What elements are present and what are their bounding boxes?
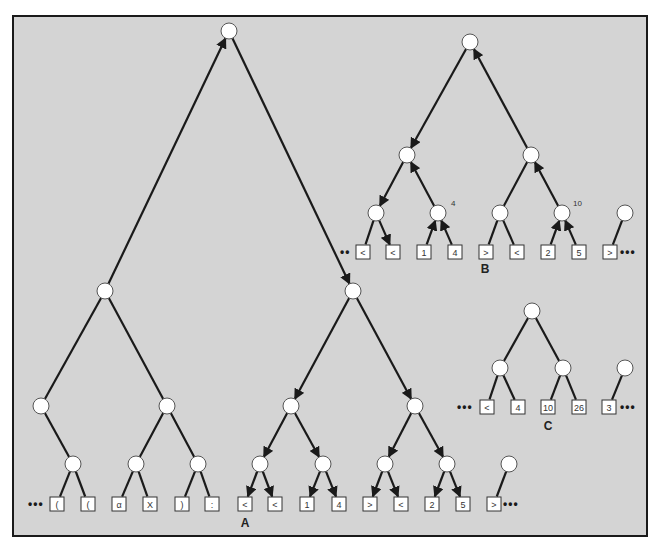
tree-node xyxy=(190,456,206,472)
directed-edge xyxy=(535,162,558,206)
tree-edge xyxy=(497,471,506,496)
token-leaf-label: ( xyxy=(56,500,59,510)
tree-edge xyxy=(613,220,622,244)
directed-edge xyxy=(263,471,272,496)
tree-edge xyxy=(185,471,195,496)
leading-ellipsis: ••• xyxy=(457,400,473,414)
tree-node xyxy=(315,456,331,472)
tree-edge xyxy=(489,221,498,245)
token-leaf-label: 2 xyxy=(429,500,434,510)
token-leaf-label: 1 xyxy=(421,248,426,258)
token-leaf-label: α xyxy=(116,500,121,510)
directed-edge xyxy=(295,413,319,457)
tree-edge xyxy=(490,376,498,400)
tree-edge xyxy=(109,298,163,399)
directed-edge xyxy=(427,221,436,245)
tree-node xyxy=(555,360,571,376)
directed-edge xyxy=(388,471,398,496)
directed-edge xyxy=(474,49,527,148)
directed-edge xyxy=(108,38,225,284)
tree-node xyxy=(439,456,455,472)
token-leaf-label: : xyxy=(211,500,214,510)
tree-edge xyxy=(503,375,514,399)
trailing-ellipsis: ••• xyxy=(620,245,636,259)
token-leaf-label: 1 xyxy=(304,500,309,510)
tree-edge xyxy=(140,413,163,457)
token-leaf-label: 4 xyxy=(515,403,520,413)
tree-node xyxy=(492,360,508,376)
tree-edge xyxy=(536,318,559,361)
tree-node xyxy=(159,398,175,414)
token-leaf-label: 5 xyxy=(460,500,465,510)
tree-node xyxy=(283,398,299,414)
tree-edge xyxy=(122,471,133,496)
tree-edge xyxy=(201,472,210,497)
tree-node xyxy=(252,456,268,472)
tree-edge xyxy=(45,413,69,457)
tree-edge xyxy=(612,375,622,399)
tree-edge xyxy=(76,471,85,496)
tree-edge xyxy=(45,298,101,399)
tree-edge xyxy=(566,375,576,399)
directed-edge xyxy=(326,471,336,496)
token-leaf-label: < xyxy=(242,500,247,510)
tree-node xyxy=(524,303,540,319)
trailing-ellipsis: ••• xyxy=(620,400,636,414)
tree-node xyxy=(430,205,446,221)
token-leaf-label: 3 xyxy=(606,403,611,413)
directed-edge xyxy=(419,413,443,457)
token-leaf-label: < xyxy=(484,403,489,413)
tree-edge xyxy=(139,472,148,497)
directed-edge xyxy=(380,162,403,206)
directed-edge xyxy=(565,220,576,244)
tree-node xyxy=(399,147,415,163)
directed-edge xyxy=(357,298,411,399)
tree-node xyxy=(617,205,633,221)
directed-edge xyxy=(389,413,412,457)
directed-edge xyxy=(411,162,434,206)
tree-node xyxy=(407,398,423,414)
node-annotation-10: 10 xyxy=(573,199,582,208)
panel-label-b: B xyxy=(481,262,490,276)
token-leaf-label: ) xyxy=(181,500,184,510)
token-leaf-label: < xyxy=(398,500,403,510)
token-leaf-label: > xyxy=(483,248,488,258)
tree-node xyxy=(554,205,570,221)
tree-edge xyxy=(551,375,560,399)
tree-node xyxy=(33,398,49,414)
tree-diagram-canvas: ((αX):<<14><25>••••••A<<14><25>•••••410B… xyxy=(0,0,661,549)
tree-edge xyxy=(504,162,527,206)
tree-node xyxy=(97,283,113,299)
directed-edge xyxy=(379,220,390,244)
tree-edge xyxy=(366,221,374,245)
directed-edge xyxy=(411,49,466,148)
panel-label-a: A xyxy=(241,516,250,530)
directed-edge xyxy=(264,413,287,457)
node-annotation-4: 4 xyxy=(451,199,456,208)
token-leaf-label: < xyxy=(514,248,519,258)
token-leaf-label: ( xyxy=(87,500,90,510)
leading-ellipsis: •• xyxy=(340,245,350,259)
directed-edge xyxy=(551,221,560,245)
tree-node xyxy=(65,456,81,472)
tree-node xyxy=(523,147,539,163)
tree-edge xyxy=(171,413,194,457)
leading-ellipsis: ••• xyxy=(28,497,44,511)
token-leaf-label: 2 xyxy=(545,248,550,258)
token-leaf-label: 26 xyxy=(574,403,584,413)
directed-edge xyxy=(310,471,320,496)
directed-edge xyxy=(441,220,452,244)
tree-edge xyxy=(504,318,528,361)
token-leaf-label: > xyxy=(607,248,612,258)
directed-edge xyxy=(295,298,349,399)
tree-node xyxy=(377,456,393,472)
directed-edge xyxy=(435,471,444,496)
token-leaf-label: X xyxy=(147,500,153,510)
tree-node xyxy=(345,283,361,299)
panel-label-c: C xyxy=(544,419,553,433)
tree-edge xyxy=(60,471,70,496)
token-leaf-label: 4 xyxy=(336,500,341,510)
tree-edge xyxy=(503,220,514,244)
token-leaf-label: 4 xyxy=(452,248,457,258)
tree-node xyxy=(501,456,517,472)
